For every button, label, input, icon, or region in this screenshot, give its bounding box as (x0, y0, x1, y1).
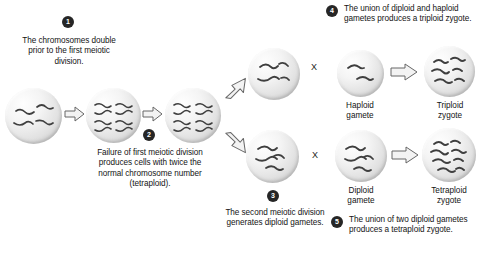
diagram-canvas: 1 The chromosomes double prior to the fi… (0, 0, 480, 256)
cell-label-tetraploid-line2: zygote (416, 196, 480, 206)
cell-diploid-gamete-lower (246, 130, 299, 183)
cell-label-triploid-line2: zygote (419, 111, 480, 121)
cross-symbol-upper: X (311, 62, 317, 72)
chromosomes-diploid-right (335, 130, 387, 182)
cell-label-diploid-line1: Diploid (331, 186, 391, 196)
step-caption-4: The union of diploid and haploid gametes… (344, 4, 472, 25)
step-caption-5: The union of two diploid gametes produce… (349, 215, 475, 236)
cell-label-tetraploid-zygote: Tetraploid zygote (416, 186, 480, 206)
step-badge-2: 2 (143, 129, 155, 141)
chromosomes-doubled (86, 88, 141, 143)
arrow-to-tetraploid-zygote (391, 145, 419, 165)
cross-symbol-lower: X (312, 150, 318, 160)
cell-label-haploid-line2: gamete (330, 111, 390, 121)
chromosomes-haploid (337, 50, 384, 97)
chromosomes-parent (5, 88, 62, 144)
cell-label-diploid-gamete: Diploid gamete (331, 186, 391, 206)
chromosomes-triploid (424, 46, 475, 97)
chromosomes-tetraploid-zygote (422, 128, 476, 182)
step-caption-3: The second meiotic division generates di… (216, 208, 334, 229)
cell-tetraploid-zygote (422, 128, 476, 182)
step-badge-1: 1 (62, 16, 74, 28)
cell-tetraploid (165, 88, 221, 143)
cell-label-haploid-line1: Haploid (330, 101, 390, 111)
step-caption-2: Failure of first meiotic division produc… (92, 148, 208, 190)
cell-haploid-gamete (337, 50, 384, 97)
cell-label-tetraploid-line1: Tetraploid (416, 186, 480, 196)
cell-parent (5, 88, 62, 144)
step-caption-1: The chromosomes double prior to the firs… (14, 36, 124, 67)
arrow-parent-to-doubled (64, 105, 85, 123)
chromosomes-tetraploid (165, 88, 221, 143)
cell-label-haploid-gamete: Haploid gamete (330, 101, 390, 121)
arrow-doubled-to-tetraploid (142, 105, 163, 123)
cell-label-diploid-line2: gamete (331, 196, 391, 206)
chromosomes-diploid-upper (248, 48, 300, 100)
step-badge-4: 4 (326, 5, 338, 17)
cell-triploid-zygote (424, 46, 475, 97)
cell-label-triploid-line1: Triploid (419, 101, 480, 111)
chromosomes-diploid-lower (246, 130, 299, 183)
cell-label-triploid-zygote: Triploid zygote (419, 101, 480, 121)
cell-diploid-gamete-upper (248, 48, 300, 100)
cell-diploid-gamete-right (335, 130, 387, 182)
step-badge-5: 5 (331, 216, 343, 228)
arrow-to-triploid-zygote (390, 62, 418, 82)
step-badge-3: 3 (267, 190, 279, 202)
cell-doubled (86, 88, 141, 143)
